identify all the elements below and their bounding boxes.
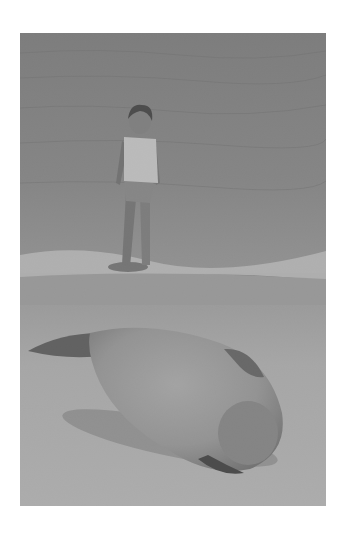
film-grain xyxy=(20,33,326,506)
beach-scene xyxy=(20,33,326,506)
photograph xyxy=(20,33,326,506)
